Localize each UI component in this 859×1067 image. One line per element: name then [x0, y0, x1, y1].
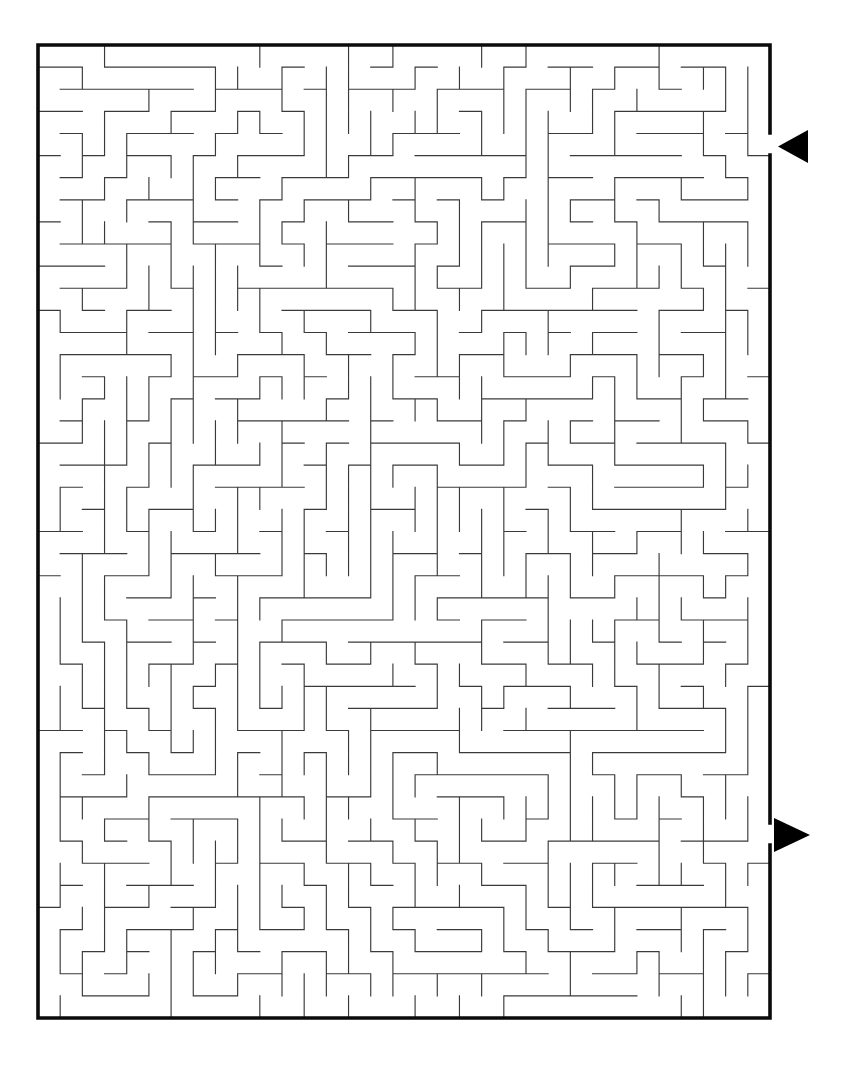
maze-page	[0, 0, 859, 1067]
maze-canvas	[0, 0, 859, 1067]
